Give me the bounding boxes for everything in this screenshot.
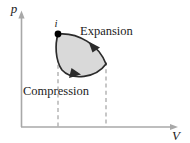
expansion-label: Expansion	[80, 24, 134, 38]
compression-label: Compression	[23, 84, 90, 98]
pv-cycle-figure: p V i Expansion Compression	[0, 0, 190, 143]
pv-diagram-canvas: p V i Expansion Compression	[0, 0, 190, 143]
initial-state-point	[55, 31, 62, 38]
volume-axis-label: V	[172, 128, 182, 143]
pressure-axis-arrowhead	[18, 11, 24, 19]
pressure-axis-label: p	[10, 1, 18, 16]
initial-state-label: i	[54, 17, 57, 29]
